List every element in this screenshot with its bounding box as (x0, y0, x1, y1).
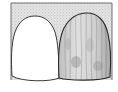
teeth-drawing (0, 0, 118, 92)
dental-illustration (0, 0, 118, 92)
left-tooth (11, 16, 59, 81)
